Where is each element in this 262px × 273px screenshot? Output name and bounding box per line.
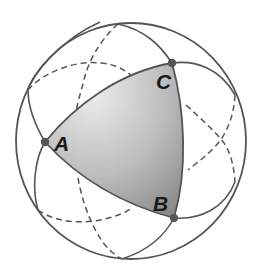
sphere-diagram: A C B [0,0,262,273]
hidden-arc-right-ascending [188,95,235,170]
arc-a-upper [28,90,45,142]
sphere-svg: A C B [0,0,262,273]
vertex-b-label: B [153,192,168,215]
arc-c-upper [118,24,172,63]
arc-b-right [174,182,235,218]
vertex-a-label: A [53,132,69,155]
arc-a-lower [35,142,45,210]
hidden-arc-right-descending [186,105,235,182]
vertex-a-dot [41,138,49,146]
vertex-c-label: C [156,70,172,93]
hidden-arc-lower-left-horizontal [38,208,132,222]
vertex-c-dot [168,59,176,67]
arc-c-right [172,62,235,95]
vertex-b-dot [170,214,178,222]
